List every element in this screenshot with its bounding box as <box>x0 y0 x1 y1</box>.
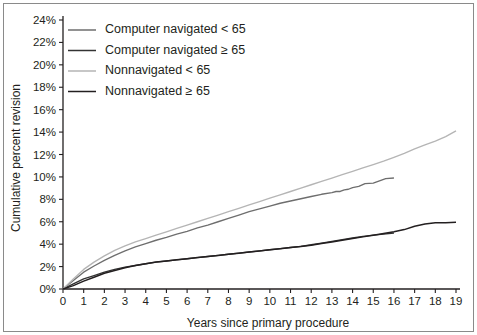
x-axis-title: Years since primary procedure <box>187 316 350 330</box>
y-tick-label: 2% <box>39 261 56 273</box>
y-tick-label: 20% <box>33 59 56 71</box>
x-axis-tick-labels: 012345678910111213141516171819 <box>60 295 463 307</box>
series-line-2 <box>63 131 456 289</box>
x-tick-label: 11 <box>285 295 297 307</box>
x-tick-label: 12 <box>305 295 318 307</box>
figure-container: 0%2%4%6%8%10%12%14%16%18%20%22%24% 01234… <box>0 0 477 335</box>
y-tick-label: 10% <box>33 171 56 183</box>
y-tick-label: 4% <box>39 238 56 250</box>
x-tick-label: 15 <box>367 295 380 307</box>
y-tick-label: 14% <box>33 126 56 138</box>
y-tick-label: 0% <box>39 283 56 295</box>
y-tick-label: 22% <box>33 36 56 48</box>
series-line-3 <box>63 222 456 289</box>
legend-label-0: Computer navigated < 65 <box>105 22 246 36</box>
x-tick-label: 17 <box>408 295 421 307</box>
x-tick-label: 7 <box>205 295 211 307</box>
y-axis-tick-labels: 0%2%4%6%8%10%12%14%16%18%20%22%24% <box>33 14 56 295</box>
x-tick-label: 4 <box>143 295 150 307</box>
y-tick-label: 12% <box>33 149 56 161</box>
y-axis-title: Cumulative percent revision <box>9 84 23 232</box>
y-tick-label: 24% <box>33 14 56 26</box>
x-tick-label: 5 <box>163 295 169 307</box>
x-tick-label: 0 <box>60 295 66 307</box>
y-tick-label: 6% <box>39 216 56 228</box>
x-tick-label: 13 <box>325 295 338 307</box>
x-tick-label: 19 <box>450 295 463 307</box>
legend-label-1: Computer navigated ≥ 65 <box>105 43 245 57</box>
x-tick-label: 10 <box>263 295 276 307</box>
legend: Computer navigated < 65Computer navigate… <box>68 22 246 98</box>
x-tick-label: 14 <box>346 295 359 307</box>
legend-label-2: Nonnavigated < 65 <box>105 63 210 77</box>
x-tick-label: 2 <box>101 295 107 307</box>
x-tick-label: 6 <box>184 295 190 307</box>
y-tick-label: 18% <box>33 81 56 93</box>
x-tick-label: 1 <box>80 295 86 307</box>
y-tick-label: 16% <box>33 104 56 116</box>
x-tick-label: 8 <box>225 295 231 307</box>
x-tick-label: 3 <box>122 295 128 307</box>
legend-label-3: Nonnavigated ≥ 65 <box>105 84 210 98</box>
x-tick-label: 16 <box>388 295 401 307</box>
x-tick-label: 18 <box>429 295 442 307</box>
line-chart: 0%2%4%6%8%10%12%14%16%18%20%22%24% 01234… <box>0 0 477 335</box>
series-line-0 <box>63 178 394 289</box>
y-tick-label: 8% <box>39 193 56 205</box>
series-lines <box>63 131 456 289</box>
series-line-1 <box>63 233 394 289</box>
x-tick-label: 9 <box>246 295 252 307</box>
